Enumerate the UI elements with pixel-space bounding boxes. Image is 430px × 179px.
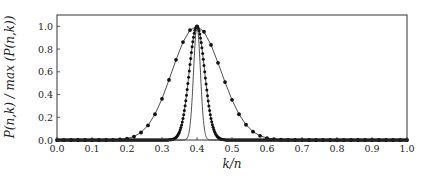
x-tick-label: 0.9 (364, 143, 379, 154)
data-marker (200, 41, 203, 44)
y-tick-label: 0.8 (38, 44, 53, 55)
series-n50 (55, 24, 409, 141)
data-marker (223, 80, 227, 84)
y-axis-label: P(n,k) / max (P(n,k)) (3, 15, 17, 139)
data-marker (182, 113, 185, 116)
data-marker (184, 104, 187, 107)
y-tick-label: 0.4 (38, 89, 53, 100)
x-tick-label: 0.3 (154, 143, 169, 154)
data-marker (208, 109, 211, 112)
data-marker (191, 40, 194, 43)
data-marker (189, 63, 192, 66)
data-marker (202, 58, 205, 61)
series-line (57, 26, 407, 140)
data-marker (186, 88, 189, 91)
x-tick-label: 1.0 (399, 143, 414, 154)
data-marker (192, 36, 195, 39)
data-marker (182, 117, 185, 120)
x-tick-label: 0.8 (329, 143, 344, 154)
data-marker (237, 112, 241, 116)
data-marker (191, 45, 194, 48)
plot-frame (57, 15, 407, 140)
data-marker (207, 99, 210, 102)
data-marker (132, 135, 136, 139)
y-tick-label: 1.0 (38, 21, 53, 32)
x-axis-label: k/n (222, 157, 241, 171)
series-line (57, 26, 407, 140)
data-marker (216, 61, 220, 65)
data-marker (187, 76, 190, 79)
data-marker (202, 30, 206, 34)
data-marker (181, 40, 185, 44)
data-marker (251, 130, 255, 134)
data-marker (185, 94, 188, 97)
data-marker (188, 69, 191, 72)
x-tick-label: 0.5 (224, 143, 239, 154)
data-marker (204, 76, 207, 79)
data-marker (230, 98, 234, 102)
data-marker (183, 109, 186, 112)
data-marker (258, 134, 262, 138)
series-n2500 (57, 26, 407, 140)
series-line (57, 26, 407, 140)
series-n500 (56, 25, 409, 142)
data-marker (209, 113, 212, 116)
data-marker (205, 88, 208, 91)
data-marker (203, 64, 206, 67)
data-marker (210, 120, 213, 123)
data-marker (211, 123, 214, 126)
x-tick-label: 0.2 (119, 143, 134, 154)
data-marker (203, 70, 206, 73)
y-tick-label: 0.6 (38, 66, 53, 77)
data-marker (201, 52, 204, 55)
data-marker (188, 28, 192, 32)
data-marker (179, 126, 182, 129)
y-tick-label: 0.2 (38, 112, 53, 123)
data-marker (184, 99, 187, 102)
data-marker (167, 78, 171, 82)
data-marker (205, 83, 208, 86)
data-marker (200, 46, 203, 49)
data-marker (210, 117, 213, 120)
data-marker (190, 51, 193, 54)
x-tick-label: 0.1 (84, 143, 99, 154)
data-marker (209, 43, 213, 47)
data-marker (181, 120, 184, 123)
data-marker (174, 58, 178, 62)
x-tick-label: 0.6 (259, 143, 274, 154)
data-marker (139, 131, 143, 135)
chart: 0.00.10.20.30.40.50.60.70.80.91.0 0.00.2… (0, 0, 430, 179)
x-tick-label: 0.4 (189, 143, 204, 154)
y-tick-label: 0.0 (38, 135, 53, 146)
x-tick-label: 0.7 (294, 143, 309, 154)
data-marker (189, 57, 192, 60)
data-marker (146, 123, 150, 127)
data-marker (160, 97, 164, 101)
data-marker (244, 123, 248, 127)
data-marker (207, 104, 210, 107)
data-marker (193, 32, 196, 35)
data-marker (153, 112, 157, 116)
data-marker (199, 36, 202, 39)
data-marker (180, 123, 183, 126)
plot-area (55, 24, 409, 141)
data-marker (186, 82, 189, 85)
data-marker (206, 94, 209, 97)
